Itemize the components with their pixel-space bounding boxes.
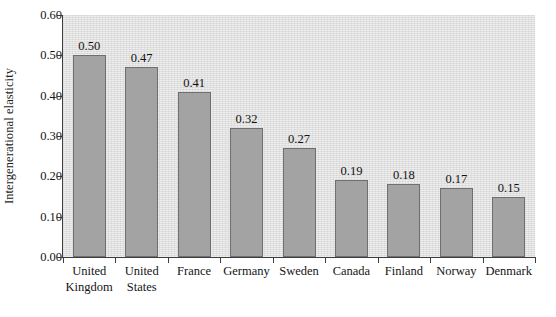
bar xyxy=(492,197,525,258)
x-axis-category-label: Denmark xyxy=(469,263,549,279)
bar-value-label: 0.18 xyxy=(374,168,434,182)
bar-value-label: 0.50 xyxy=(59,39,119,53)
bar xyxy=(283,148,316,257)
x-axis-tick-mark xyxy=(535,258,536,263)
x-axis-category-label-line2: States xyxy=(102,279,182,295)
bar-value-label: 0.27 xyxy=(269,132,329,146)
x-axis-line xyxy=(62,257,536,258)
bar-value-label: 0.15 xyxy=(479,181,539,195)
bar-value-label: 0.47 xyxy=(112,51,172,65)
bar xyxy=(178,92,211,257)
y-axis-title: Intergenerational elasticity xyxy=(0,15,18,257)
bar-chart-figure: Intergenerational elasticity 0.600.500.4… xyxy=(0,0,556,317)
bar xyxy=(125,67,158,257)
bar xyxy=(73,55,106,257)
bar-value-label: 0.32 xyxy=(217,112,277,126)
y-axis-tick-label: 0.30 xyxy=(18,128,62,144)
bar xyxy=(230,128,263,257)
bar xyxy=(440,188,473,257)
y-axis-tick-label: 0.40 xyxy=(18,88,62,104)
y-axis-tick-label: 0.60 xyxy=(18,7,62,23)
y-axis-tick-label: 0.50 xyxy=(18,47,62,63)
bar-value-label: 0.17 xyxy=(426,172,486,186)
bar-value-label: 0.19 xyxy=(321,164,381,178)
bar xyxy=(387,184,420,257)
bar-value-label: 0.41 xyxy=(164,76,224,90)
bar xyxy=(335,180,368,257)
y-axis-tick-label: 0.10 xyxy=(18,209,62,225)
y-axis-tick-label: 0.20 xyxy=(18,168,62,184)
